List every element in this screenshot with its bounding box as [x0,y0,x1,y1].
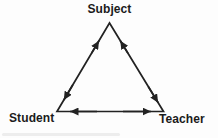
scan-artifact-smudge [2,133,120,136]
node-label-student: Student [9,111,54,125]
arrow-subject-to-student [64,85,73,100]
node-label-subject: Subject [87,2,131,16]
arrow-teacher-to-subject [120,41,128,53]
triangle-outline [57,23,164,112]
arrow-student-to-subject [92,41,99,53]
arrow-subject-to-teacher [148,87,158,103]
triangle-diagram: Subject Student Teacher [0,0,218,138]
node-label-teacher: Teacher [159,112,205,126]
